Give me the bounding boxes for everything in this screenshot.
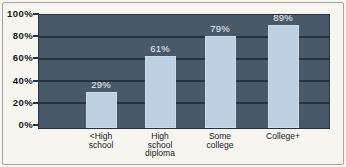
bar (268, 25, 299, 128)
bar-group: 79% (200, 24, 240, 128)
x-axis-category-label: College+ (248, 132, 318, 141)
bar-value-label: 79% (210, 24, 230, 34)
bar (86, 92, 117, 128)
y-axis-tick-mark (33, 35, 39, 37)
y-axis-tick-label: 100% (2, 9, 33, 19)
y-axis-tick-label: 60% (2, 53, 33, 63)
y-axis-tick-mark (33, 124, 39, 126)
bar-group: 89% (263, 13, 303, 128)
bar-group: 29% (81, 80, 121, 128)
bar-value-label: 29% (91, 80, 111, 90)
plot-area: 29% 61% 79% 89% (38, 14, 330, 129)
y-axis-tick-mark (33, 80, 39, 82)
bar (145, 56, 176, 128)
bar-value-label: 61% (150, 44, 170, 54)
bar-value-label: 89% (273, 13, 293, 23)
y-axis-tick-label: 20% (2, 98, 33, 108)
y-axis-tick-mark (33, 13, 39, 15)
y-axis-tick-mark (33, 57, 39, 59)
y-axis-tick-label: 80% (2, 31, 33, 41)
x-axis-category-label: Some college (185, 132, 255, 149)
bar (205, 36, 236, 128)
y-axis-tick-label: 40% (2, 76, 33, 86)
bar-chart: 29% 61% 79% 89% 100% 80% 60% 40% 20% 0% … (0, 0, 346, 167)
bar-group: 61% (140, 44, 180, 128)
y-axis-tick-mark (33, 102, 39, 104)
y-axis-tick-label: 0% (2, 120, 33, 130)
